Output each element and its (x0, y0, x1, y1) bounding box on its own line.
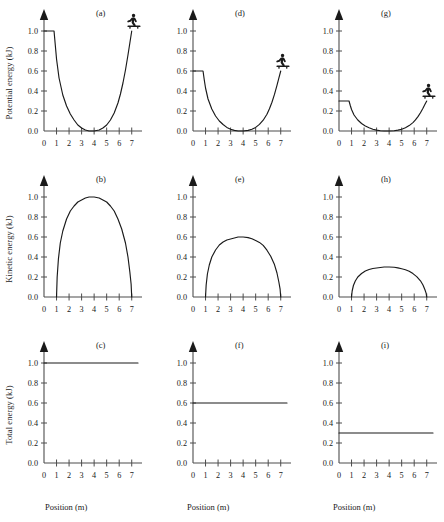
y-tick-label: 0.6 (177, 399, 187, 408)
x-tick-label: 5 (400, 139, 404, 148)
x-tick-label: 0 (337, 305, 341, 314)
x-tick-label: 0 (42, 139, 46, 148)
y-tick-label: 0.8 (177, 379, 187, 388)
y-tick-label: 0.0 (177, 127, 187, 136)
x-tick-label: 1 (54, 139, 58, 148)
y-tick-label: 0.0 (323, 293, 333, 302)
y-tick-label: 0.4 (28, 419, 38, 428)
skateboarder-icon (276, 54, 289, 69)
x-tick-label: 2 (216, 471, 220, 480)
x-tick-label: 0 (191, 471, 195, 480)
x-tick-label: 3 (229, 139, 233, 148)
x-tick-label: 4 (387, 139, 391, 148)
x-tick-label: 3 (80, 139, 84, 148)
y-tick-label: 0.6 (323, 233, 333, 242)
panel-b: Kinetic energy (kJ) (b) 0.00.20.40.60.81… (0, 166, 149, 332)
plot-c: 0.00.20.40.60.81.001234567 (0, 332, 149, 498)
x-tick-label: 2 (216, 305, 220, 314)
x-tick-label: 1 (54, 305, 58, 314)
x-tick-label: 4 (241, 139, 245, 148)
x-tick-label: 2 (362, 471, 366, 480)
y-tick-label: 0.2 (177, 439, 187, 448)
y-tick-label: 1.0 (177, 193, 187, 202)
x-tick-label: 2 (362, 139, 366, 148)
y-tick-label: 0.4 (323, 419, 333, 428)
y-tick-label: 1.0 (28, 359, 38, 368)
y-tick-label: 0.2 (177, 107, 187, 116)
y-tick-label: 0.2 (323, 107, 333, 116)
axis-arrow-icon (335, 175, 343, 186)
x-tick-label: 7 (130, 471, 134, 480)
y-tick-label: 0.6 (323, 399, 333, 408)
panel-f: (f) 0.00.20.40.60.81.001234567 Position … (149, 332, 295, 522)
x-tick-label: 7 (425, 139, 429, 148)
skateboarder-icon (422, 84, 435, 99)
x-tick-label: 3 (80, 305, 84, 314)
x-tick-label: 7 (279, 139, 283, 148)
x-tick-label: 4 (387, 305, 391, 314)
y-tick-label: 0.0 (323, 459, 333, 468)
axis-arrow-icon (335, 341, 343, 352)
curve-b (57, 197, 132, 297)
y-tick-label: 0.8 (177, 213, 187, 222)
panel-a: Potential energy (kJ) (a) 0.00.20.40.60.… (0, 0, 149, 166)
x-tick-label: 5 (105, 471, 109, 480)
x-tick-label: 3 (375, 139, 379, 148)
y-tick-label: 1.0 (177, 359, 187, 368)
x-tick-label: 2 (216, 139, 220, 148)
axis-arrow-icon (40, 175, 48, 186)
y-tick-label: 0.0 (177, 459, 187, 468)
x-tick-label: 6 (266, 305, 270, 314)
plot-h: 0.00.20.40.60.81.001234567 (295, 166, 444, 332)
x-tick-label: 7 (425, 305, 429, 314)
x-tick-label: 4 (92, 305, 96, 314)
y-tick-label: 1.0 (177, 27, 187, 36)
x-tick-label: 6 (266, 139, 270, 148)
x-tick-label: 6 (266, 471, 270, 480)
x-tick-label: 0 (337, 139, 341, 148)
x-axis-title-c: Position (m) (45, 502, 87, 512)
x-tick-label: 4 (92, 139, 96, 148)
plot-b: 0.00.20.40.60.81.001234567 (0, 166, 149, 332)
axis-arrow-icon (189, 9, 197, 20)
x-tick-label: 0 (191, 139, 195, 148)
y-tick-label: 0.8 (323, 379, 333, 388)
y-tick-label: 0.2 (323, 439, 333, 448)
y-tick-label: 1.0 (323, 193, 333, 202)
x-axis-title-f: Position (m) (187, 502, 229, 512)
x-tick-label: 0 (42, 471, 46, 480)
axis-arrow-icon (40, 341, 48, 352)
x-tick-label: 7 (279, 305, 283, 314)
x-tick-label: 1 (349, 305, 353, 314)
y-tick-label: 0.6 (323, 67, 333, 76)
y-tick-label: 0.8 (28, 379, 38, 388)
x-tick-label: 7 (425, 471, 429, 480)
y-tick-label: 0.0 (323, 127, 333, 136)
y-tick-label: 0.2 (28, 273, 38, 282)
plot-a: 0.00.20.40.60.81.001234567 (0, 0, 149, 166)
x-tick-label: 7 (279, 471, 283, 480)
x-tick-label: 2 (67, 305, 71, 314)
y-tick-label: 0.6 (28, 399, 38, 408)
y-tick-label: 0.6 (28, 67, 38, 76)
x-tick-label: 1 (349, 471, 353, 480)
x-tick-label: 4 (241, 471, 245, 480)
y-tick-label: 0.4 (28, 87, 38, 96)
x-tick-label: 5 (254, 139, 258, 148)
x-tick-label: 6 (117, 139, 121, 148)
curve-e (206, 237, 281, 297)
y-tick-label: 0.0 (28, 127, 38, 136)
panel-grid: Potential energy (kJ) (a) 0.00.20.40.60.… (0, 0, 444, 522)
x-tick-label: 6 (412, 471, 416, 480)
x-tick-label: 1 (349, 139, 353, 148)
x-tick-label: 3 (229, 471, 233, 480)
y-tick-label: 0.2 (323, 273, 333, 282)
skateboarder-icon (127, 14, 140, 29)
y-tick-label: 0.8 (323, 47, 333, 56)
y-tick-label: 0.0 (28, 293, 38, 302)
y-tick-label: 1.0 (28, 193, 38, 202)
axis-arrow-icon (40, 9, 48, 20)
x-tick-label: 1 (203, 471, 207, 480)
x-tick-label: 1 (203, 305, 207, 314)
x-tick-label: 7 (130, 305, 134, 314)
